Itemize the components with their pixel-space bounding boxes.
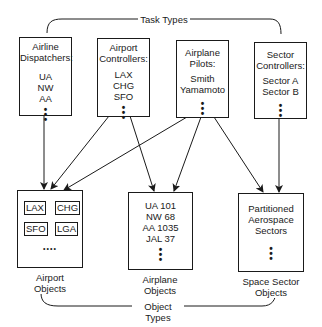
- task-box-sector-controllers: SectorControllers: Sector ASector B •••: [254, 42, 307, 119]
- ellipsis-icon: •••: [98, 105, 149, 120]
- airport-objects-label: AirportObjects: [22, 272, 78, 294]
- airport-sfo: SFO: [24, 222, 48, 236]
- airport-chg: CHG: [55, 201, 80, 215]
- task-types-label: Task Types: [140, 14, 188, 25]
- arrow-pilots-sector: [214, 117, 263, 192]
- airport-lax: LAX: [24, 201, 46, 215]
- ellipsis-icon: •••: [129, 247, 192, 262]
- airport-lga: LGA: [55, 222, 78, 236]
- object-box-airport: LAX CHG SFO LGA ••••: [17, 190, 83, 268]
- airplane-objects-label: AirplaneObjects: [132, 274, 188, 296]
- object-types-label: Object Types: [132, 301, 184, 323]
- ellipsis-icon: ••••: [18, 243, 82, 254]
- task-box-airport-controllers: AirportControllers: LAXCHGSFO •••: [97, 38, 150, 117]
- ellipsis-icon: •••: [255, 103, 306, 118]
- arrow-airportctl-airport: [51, 116, 109, 189]
- ellipsis-icon: •••: [20, 107, 71, 122]
- object-box-airplane: UA 101NW 68AA 1035JAL 37 •••: [128, 192, 193, 270]
- task-box-airline-dispatchers: AirlineDispatchers: UANWAA •••: [19, 37, 72, 116]
- arrow-pilots-airplane: [174, 117, 201, 191]
- ellipsis-icon: •••: [239, 246, 303, 261]
- ellipsis-icon: •••: [177, 101, 228, 116]
- arrow-airportctl-airplane: [130, 116, 154, 191]
- space-sector-objects-label: Space SectorObjects: [238, 276, 304, 298]
- arrow-pilots-airport: [64, 117, 187, 190]
- task-box-airplane-pilots: AirplanePilots: SmithYamamoto •••: [176, 40, 229, 118]
- object-box-space-sector: PartitionedAerospaceSectors •••: [238, 193, 304, 272]
